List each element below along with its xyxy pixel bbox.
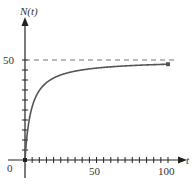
- y-axis-label: N(t): [19, 5, 38, 18]
- chart: N(t) t 0 50 50 100: [0, 0, 193, 186]
- curve-N-of-t: [25, 64, 168, 160]
- y-axis-arrow-icon: [22, 17, 29, 26]
- origin-label: 0: [7, 162, 13, 174]
- x-tick-label-50: 50: [89, 165, 101, 177]
- endpoint-marker: [166, 62, 170, 66]
- x-tick-label-100: 100: [158, 165, 175, 177]
- origin-marker: [23, 158, 27, 162]
- x-axis-label: t: [186, 154, 190, 166]
- y-tick-label-50: 50: [3, 54, 15, 66]
